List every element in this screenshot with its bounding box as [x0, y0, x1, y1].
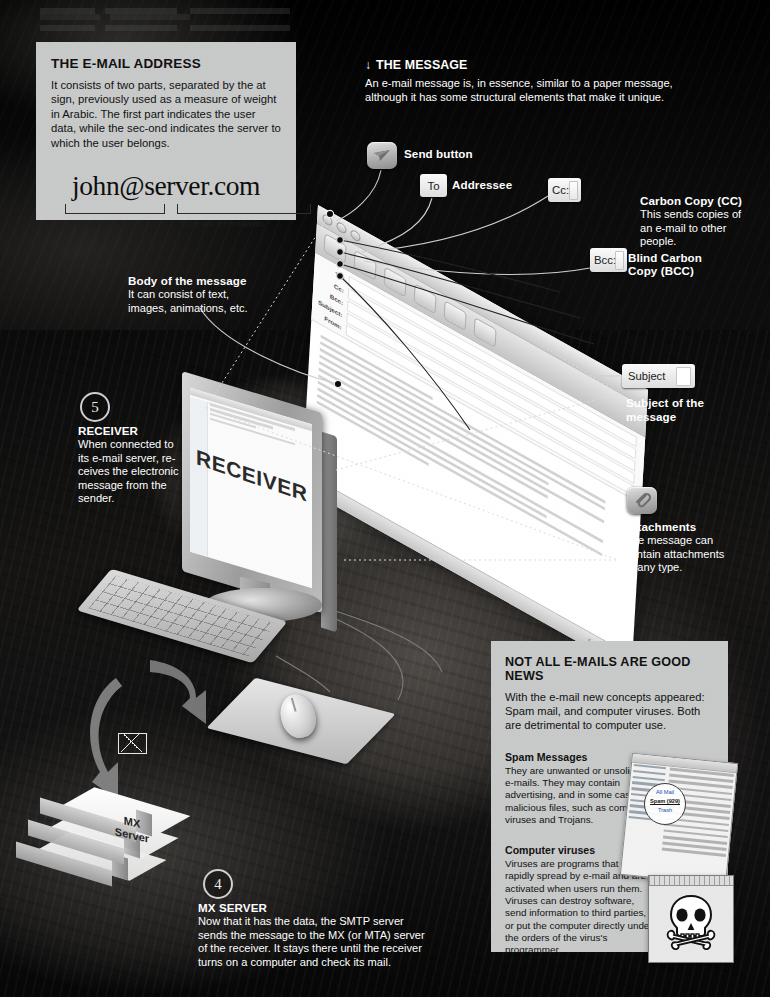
callout-receiver: RECEIVER When connected to its e-mail se…: [78, 424, 182, 506]
callout-carbon-copy: Carbon Copy (CC) This sends copies of an…: [640, 194, 750, 249]
spam-panel-title: NOT ALL E-MAILS ARE GOOD NEWS: [505, 655, 714, 683]
domain-information-label: Domain information: [163, 218, 281, 229]
email-compose-window[interactable]: To: Cc: Bcc: Subject: From:: [318, 205, 618, 565]
callout-title: ↓THE MESSAGE: [365, 58, 685, 72]
magnifier-trash: Trash: [658, 807, 672, 813]
message-body: An e-mail message is, in essence, simila…: [365, 77, 685, 104]
keyboard[interactable]: [94, 588, 280, 672]
address-bracket-labels: User information Domain information: [51, 218, 281, 229]
send-paper-plane-icon[interactable]: [367, 142, 397, 169]
receiver-body: When connected to its e-mail server, re-…: [78, 438, 182, 506]
panel-email-address: THE E-MAIL ADDRESS It consists of two pa…: [36, 42, 296, 220]
skull-and-crossbones-icon: [663, 892, 719, 950]
virus-window-screenshot: [648, 875, 734, 963]
mx-server-stack: MX Server: [42, 792, 182, 904]
user-information-label: User information: [51, 218, 163, 229]
body-desc: It can consist of text, images, animatio…: [128, 288, 248, 315]
callout-body-of-message: Body of the message It can consist of te…: [128, 274, 248, 315]
bcc-title: Blind Carbon Copy (BCC): [628, 251, 718, 278]
magnifier-spam-count: All Mail Spam (929) Trash: [644, 783, 686, 825]
mx-server-title: MX SERVER: [198, 901, 430, 914]
chip-subject[interactable]: Subject: [622, 364, 695, 388]
send-button-label: Send button: [404, 147, 473, 160]
panel-body: It consists of two parts, separated by t…: [51, 78, 283, 150]
mx-server-body: Now that it has the data, the SMTP serve…: [198, 915, 430, 969]
envelope-icon: [118, 733, 147, 754]
monitor-side-panel: [321, 432, 337, 633]
cc-body: This sends copies of an e-mail to other …: [640, 208, 750, 249]
paperclip-icon[interactable]: [627, 487, 657, 514]
magnifier-spam: Spam (929): [645, 797, 685, 806]
callout-mx-server: MX SERVER Now that it has the data, the …: [198, 901, 430, 969]
body-title: Body of the message: [128, 274, 248, 287]
infographic-canvas: To: Cc: Bcc: Subject: From:: [0, 0, 770, 997]
arrow-down-icon: ↓: [365, 58, 371, 72]
email-address-example: john@server.com: [51, 170, 281, 202]
chip-bcc[interactable]: Bcc:: [590, 248, 627, 272]
step-number-mx-server: 4: [203, 869, 233, 899]
receiver-title: RECEIVER: [78, 424, 182, 437]
callout-attachments: Attachments The message can contain atta…: [625, 520, 725, 575]
cc-title: Carbon Copy (CC): [640, 194, 750, 207]
addressee-label: Addressee: [452, 178, 512, 191]
callout-subject: Subject of the message: [626, 396, 718, 423]
step-number-receiver: 5: [80, 392, 110, 422]
chip-to[interactable]: To: [420, 174, 447, 197]
panel-title: THE E-MAIL ADDRESS: [51, 56, 281, 71]
callout-blind-carbon-copy: Blind Carbon Copy (BCC): [628, 251, 718, 278]
magnifier-all-mail: All Mail: [656, 789, 674, 795]
message-title: THE MESSAGE: [376, 58, 467, 72]
attachments-body: The message can contain attachments of a…: [625, 534, 725, 575]
address-brackets: [51, 204, 281, 216]
chip-cc[interactable]: Cc:: [548, 178, 581, 202]
spam-panel-lead: With the e-mail new concepts appeared: S…: [505, 690, 710, 733]
callout-send-button: Send button: [404, 147, 473, 160]
subject-title: Subject of the message: [626, 396, 718, 423]
callout-the-message: ↓THE MESSAGE An e-mail message is, in es…: [365, 58, 685, 104]
callout-addressee: Addressee: [452, 178, 512, 191]
attachments-title: Attachments: [625, 520, 725, 533]
